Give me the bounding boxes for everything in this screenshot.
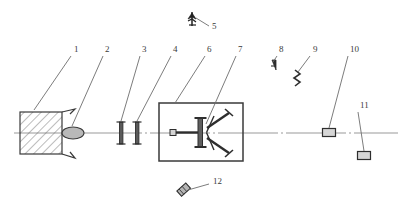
callout-label-10: 10: [350, 44, 360, 54]
callout-label-12: 12: [213, 176, 222, 186]
leader-6: [175, 56, 205, 103]
leader-4: [137, 56, 171, 121]
callout-label-7: 7: [238, 44, 243, 54]
leader-12: [188, 184, 209, 190]
callout-label-2: 2: [105, 44, 110, 54]
callout-label-9: 9: [313, 44, 318, 54]
callout-label-6: 6: [207, 44, 212, 54]
callout-label-1: 1: [74, 44, 79, 54]
callout-label-5: 5: [212, 21, 217, 31]
antenna-probe-icon: [188, 12, 196, 26]
leader-5: [196, 18, 209, 26]
schematic-canvas: 1 2 3 4 5 6 7 8 9 10 11 12: [0, 0, 406, 210]
oval-lens: [62, 127, 84, 139]
leader-10: [329, 56, 348, 128]
leader-1: [34, 56, 71, 110]
leader-11: [358, 112, 364, 151]
callout-label-11: 11: [360, 100, 369, 110]
callout-label-3: 3: [142, 44, 147, 54]
lower-block-11: [358, 152, 371, 160]
leader-3: [121, 56, 140, 121]
leader-9: [298, 56, 310, 72]
callout-label-4: 4: [173, 44, 178, 54]
axis-block-10: [323, 129, 336, 137]
callout-label-8: 8: [279, 44, 284, 54]
leader-2: [72, 56, 103, 126]
technical-diagram: 1 2 3 4 5 6 7 8 9 10 11 12: [0, 0, 406, 210]
zigzag-element-icon: [294, 70, 300, 86]
